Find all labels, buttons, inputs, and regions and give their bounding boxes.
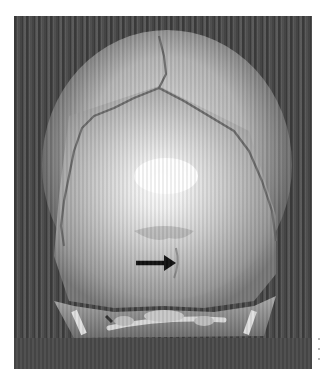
- ct-image-frame: [14, 16, 312, 369]
- arrow-annotation-icon: [14, 16, 312, 369]
- margin-marks: [318, 338, 322, 368]
